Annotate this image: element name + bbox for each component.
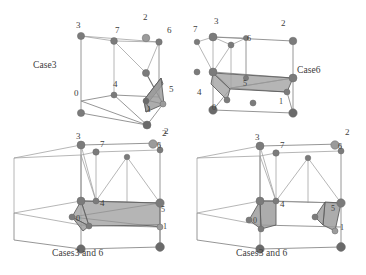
vertex-label: 2 bbox=[345, 127, 350, 137]
vertex-label: 4 bbox=[280, 199, 285, 209]
vertex-label: 2 bbox=[164, 126, 169, 136]
vertex-label: 6 bbox=[247, 34, 251, 43]
caption-case3: Case3 bbox=[33, 60, 57, 70]
vertex-label: 5 bbox=[243, 79, 247, 88]
caption-cases36-left: Cases3 and 6 bbox=[52, 248, 103, 258]
vertex-label: 1 bbox=[340, 223, 344, 232]
vertex-label: 0 bbox=[212, 103, 216, 112]
panel-case6: 7 3 6 2 4 5 0 1 bbox=[183, 0, 366, 138]
panel-case3: 3 7 2 6 0 4 5 1 2 bbox=[0, 0, 183, 138]
vertex-label: 4 bbox=[197, 87, 202, 97]
vertex-label: 1 bbox=[163, 222, 167, 231]
vertex-label: 1 bbox=[279, 97, 283, 106]
vertex-label: 7 bbox=[280, 140, 285, 150]
vertex-label: 4 bbox=[113, 79, 118, 89]
vertex-label: 5 bbox=[169, 84, 174, 94]
vertex-label: 6 bbox=[167, 25, 172, 35]
vertex-label: 5 bbox=[331, 204, 335, 213]
vertex-label: 6 bbox=[157, 141, 161, 150]
vertex-label: 4 bbox=[100, 198, 105, 208]
vertex-label: 3 bbox=[76, 20, 81, 30]
vertex-label: 3 bbox=[255, 132, 260, 142]
vertex-label: 0 bbox=[76, 214, 80, 223]
vertex-label: 0 bbox=[74, 88, 79, 98]
vertex-label: 1 bbox=[147, 105, 151, 114]
vertex-label: 5 bbox=[161, 205, 165, 214]
vertex-label: 7 bbox=[193, 24, 198, 34]
vertex-label: 3 bbox=[76, 131, 81, 141]
caption-cases36-right: Cases3 and 6 bbox=[236, 248, 287, 258]
vertex-label-layer: 3 7 2 6 0 4 5 1 2 bbox=[0, 0, 183, 138]
vertex-label: 6 bbox=[338, 142, 342, 151]
vertex-label-layer: 7 3 6 2 4 5 0 1 bbox=[183, 0, 366, 138]
figure-canvas: 3 7 2 6 0 4 5 1 2 bbox=[0, 0, 366, 275]
vertex-label: 0 bbox=[253, 216, 257, 225]
caption-case6: Case6 bbox=[297, 65, 321, 75]
vertex-label: 2 bbox=[143, 12, 148, 22]
vertex-label: 2 bbox=[281, 18, 286, 28]
vertex-label: 7 bbox=[100, 139, 105, 149]
vertex-label: 7 bbox=[115, 25, 120, 35]
vertex-label: 3 bbox=[214, 16, 219, 26]
